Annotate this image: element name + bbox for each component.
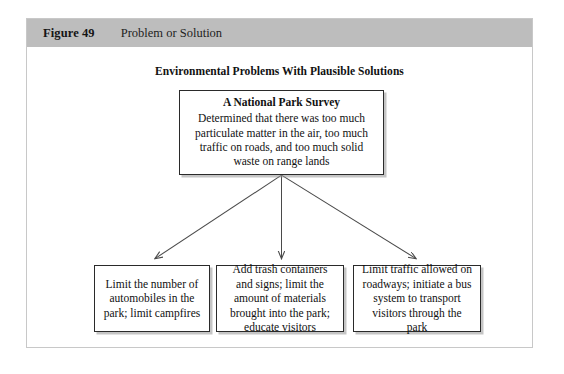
node-solution-1-text: Limit the number of automobiles in the p… [102, 277, 202, 320]
figure-frame: Figure 49 Problem or Solution Environmen… [26, 18, 533, 348]
node-root-survey: A National Park Survey Determined that t… [179, 90, 384, 175]
node-solution-3: Limit traffic allowed on roadways; initi… [353, 265, 481, 332]
figure-header-bar: Figure 49 Problem or Solution [27, 19, 532, 47]
node-solution-2-text: Add trash containers and signs; limit th… [224, 262, 336, 334]
diagram-title: Environmental Problems With Plausible So… [27, 65, 532, 77]
node-solution-2: Add trash containers and signs; limit th… [216, 265, 344, 332]
figure-number-label: Figure 49 [43, 26, 95, 41]
node-root-heading: A National Park Survey [223, 96, 340, 108]
node-solution-3-text: Limit traffic allowed on roadways; initi… [361, 262, 473, 334]
diagram-area: Environmental Problems With Plausible So… [27, 47, 532, 347]
node-solution-1: Limit the number of automobiles in the p… [94, 265, 210, 332]
figure-caption-label: Problem or Solution [121, 26, 222, 41]
node-root-body: Determined that there was too much parti… [190, 111, 373, 169]
